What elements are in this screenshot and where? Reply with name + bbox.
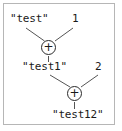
expression-tree-figure: "test" 1 + "test1" 2 + "test12" bbox=[0, 0, 122, 131]
operand-label-two: 2 bbox=[95, 61, 101, 73]
operand-label-test: "test" bbox=[10, 13, 49, 25]
plus-operator-icon-0: + bbox=[41, 40, 56, 55]
operand-label-test1: "test1" bbox=[22, 61, 67, 73]
plus-operator-icon-1: + bbox=[67, 86, 82, 101]
result-label-test12: "test12" bbox=[52, 109, 103, 121]
plus-symbol-1: + bbox=[68, 87, 81, 100]
plus-symbol-0: + bbox=[42, 41, 55, 54]
operand-label-one: 1 bbox=[72, 13, 78, 25]
